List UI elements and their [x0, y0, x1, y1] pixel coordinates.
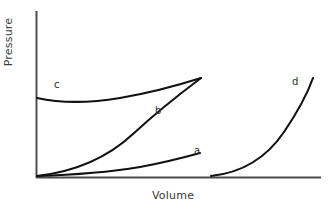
curve-b: [37, 78, 201, 176]
x-axis-label: Volume: [152, 189, 194, 202]
curve-label-b: b: [155, 105, 161, 116]
curve-d: [211, 78, 313, 176]
curve-label-a: a: [194, 145, 200, 156]
curve-label-d: d: [292, 76, 298, 87]
y-axis-label: Pressure: [2, 2, 15, 82]
pressure-volume-diagram: Pressure Volume a b c d: [0, 0, 329, 209]
plot-area: [0, 0, 329, 209]
curve-label-c: c: [54, 79, 60, 90]
